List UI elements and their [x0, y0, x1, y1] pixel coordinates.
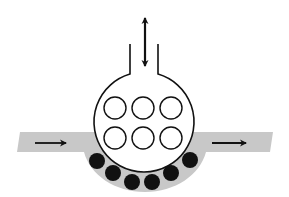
hollow-bead	[160, 97, 182, 119]
solid-bead	[163, 165, 179, 181]
hollow-bead	[104, 97, 126, 119]
solid-bead	[105, 165, 121, 181]
solid-bead	[144, 174, 160, 190]
hollow-bead	[132, 127, 154, 149]
hollow-bead	[104, 127, 126, 149]
hollow-bead	[132, 97, 154, 119]
hollow-bead	[160, 127, 182, 149]
solid-bead	[124, 174, 140, 190]
solid-bead	[182, 152, 198, 168]
solid-bead	[89, 153, 105, 169]
vessel-flow-diagram	[0, 0, 289, 197]
